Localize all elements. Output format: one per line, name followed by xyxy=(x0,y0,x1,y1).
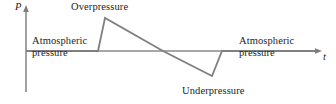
y-axis-arrowhead-icon xyxy=(23,5,29,12)
atmospheric-pressure-right-line1: Atmospheric xyxy=(239,35,294,46)
pressure-time-figure: P t Overpressure Underpressure Atmospher… xyxy=(0,0,336,104)
atmospheric-pressure-left-line2: pressure xyxy=(32,47,87,58)
atmospheric-pressure-left-line1: Atmospheric xyxy=(32,35,87,46)
atmospheric-pressure-label-left: Atmospheric pressure xyxy=(32,35,87,58)
overpressure-label: Overpressure xyxy=(71,1,128,12)
y-axis-label: P xyxy=(15,1,22,12)
atmospheric-pressure-right-line2: pressure xyxy=(239,47,294,58)
underpressure-label: Underpressure xyxy=(182,85,245,96)
x-axis-label: t xyxy=(323,51,326,62)
atmospheric-pressure-label-right: Atmospheric pressure xyxy=(239,35,294,58)
y-axis xyxy=(23,5,29,92)
